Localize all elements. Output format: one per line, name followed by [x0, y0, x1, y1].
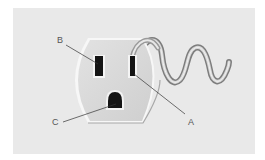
- slot-a-hot: [128, 55, 137, 78]
- label-a: A: [188, 118, 194, 127]
- label-c: C: [52, 118, 59, 127]
- outlet-faceplate: [75, 38, 160, 123]
- outlet-diagram: [0, 0, 265, 160]
- slot-b-neutral: [93, 55, 105, 78]
- label-b: B: [57, 36, 63, 45]
- ground-hole-c: [106, 90, 124, 110]
